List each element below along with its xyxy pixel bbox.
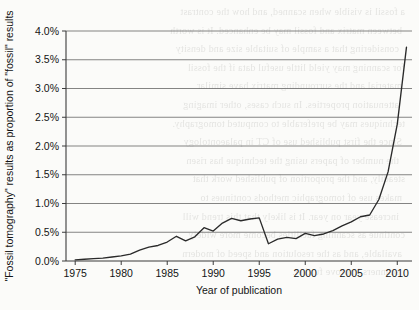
x-tick-label: 1980 xyxy=(110,267,134,279)
y-tick-label: 0.5% xyxy=(35,226,59,238)
x-tick-label: 1990 xyxy=(202,267,226,279)
x-tick-label: 2010 xyxy=(386,267,410,279)
y-axis-ticks xyxy=(62,31,66,261)
y-tick-label: 0.0% xyxy=(35,255,59,267)
x-tick-label: 1985 xyxy=(156,267,180,279)
y-axis-title: "Fossil tomography" results as proportio… xyxy=(3,10,15,281)
x-tick-label: 2000 xyxy=(294,267,318,279)
x-tick-label: 2005 xyxy=(340,267,364,279)
y-tick-label: 3.0% xyxy=(35,82,59,94)
figure-page: a fossil is visible when scanned, and ho… xyxy=(0,0,419,310)
y-tick-label: 3.5% xyxy=(35,53,59,65)
gridlines xyxy=(66,31,412,232)
y-tick-label: 2.0% xyxy=(35,140,59,152)
chart-svg: 0.0%0.5%1.0%1.5%2.0%2.5%3.0%3.5%4.0% 197… xyxy=(0,0,419,310)
y-tick-label: 1.5% xyxy=(35,168,59,180)
x-tick-label: 1995 xyxy=(248,267,272,279)
x-axis-title: Year of publication xyxy=(196,284,282,296)
line-chart: 0.0%0.5%1.0%1.5%2.0%2.5%3.0%3.5%4.0% 197… xyxy=(0,0,419,310)
data-series-line xyxy=(75,47,406,260)
x-axis-ticks xyxy=(75,261,397,265)
x-axis-tick-labels: 19751980198519901995200020052010 xyxy=(64,267,410,279)
x-tick-label: 1975 xyxy=(64,267,88,279)
y-tick-label: 1.0% xyxy=(35,197,59,209)
y-tick-label: 2.5% xyxy=(35,111,59,123)
y-tick-label: 4.0% xyxy=(35,25,59,37)
y-axis-tick-labels: 0.0%0.5%1.0%1.5%2.0%2.5%3.0%3.5%4.0% xyxy=(35,25,59,267)
